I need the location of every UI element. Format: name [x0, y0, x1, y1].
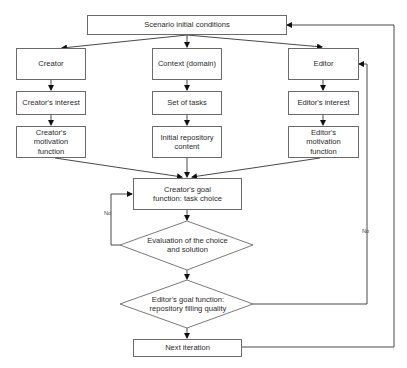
- node-label: Editor's motivation function: [299, 128, 348, 157]
- node-editor-motivation: Editor's motivation function: [288, 126, 359, 158]
- node-scenario-initial-conditions: Scenario initial conditions: [87, 15, 287, 35]
- node-label: Next iteration: [165, 343, 210, 353]
- node-label: Editor's goal function: repository filli…: [138, 295, 238, 314]
- node-label: Creator's goal function: task choice: [152, 185, 223, 204]
- node-set-of-tasks: Set of tasks: [152, 91, 222, 115]
- node-label: Editor: [314, 59, 334, 69]
- node-initial-repository: Initial repository content: [152, 126, 222, 158]
- node-next-iteration: Next iteration: [133, 339, 242, 357]
- node-label: Set of tasks: [167, 98, 207, 108]
- evaluation-label: Evaluation of the choice and solution: [140, 233, 235, 257]
- node-label: Editor's interest: [297, 98, 349, 108]
- node-editor-interest: Editor's interest: [288, 91, 359, 115]
- node-label: Scenario initial conditions: [144, 20, 230, 30]
- node-creator-interest: Creator's interest: [16, 91, 86, 115]
- arrow-start-editor: [187, 35, 322, 47]
- no-label-editor-goal: No: [362, 228, 369, 234]
- node-label: Evaluation of the choice and solution: [140, 236, 235, 255]
- node-label: Context (domain): [158, 59, 216, 69]
- node-label: Creator's motivation function: [27, 128, 75, 157]
- node-label: Initial repository content: [157, 133, 217, 152]
- node-context: Context (domain): [152, 48, 222, 80]
- node-label: Creator's interest: [22, 98, 80, 108]
- node-creator-goal: Creator's goal function: task choice: [133, 178, 242, 210]
- node-creator-motivation: Creator's motivation function: [16, 126, 86, 158]
- arrow-start-creator: [62, 35, 187, 48]
- node-editor: Editor: [288, 48, 359, 80]
- arrow-evaluation-no: [111, 194, 132, 245]
- editor-goal-label: Editor's goal function: repository filli…: [138, 292, 238, 316]
- node-creator: Creator: [16, 48, 86, 80]
- node-label: Creator: [38, 59, 63, 69]
- no-label-evaluation: No: [104, 210, 111, 216]
